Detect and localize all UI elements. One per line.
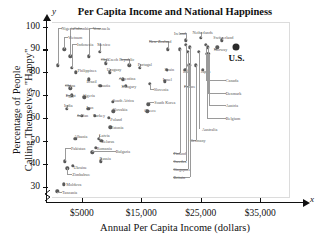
label-leader-line bbox=[188, 52, 189, 170]
data-point-label: South Korea bbox=[154, 100, 175, 105]
label-leader-line bbox=[196, 65, 197, 139]
data-point-label: Slovakia bbox=[113, 106, 128, 111]
label-leader-line bbox=[58, 28, 59, 66]
data-point-label: Colombia bbox=[73, 25, 90, 30]
data-point-label: Bulgaria bbox=[116, 149, 130, 154]
data-point-label: Finland bbox=[173, 151, 186, 156]
data-point-label: Albania bbox=[74, 134, 87, 139]
data-point-label: China bbox=[65, 82, 75, 87]
label-leader-line bbox=[209, 54, 210, 105]
data-point-label: Belgium bbox=[226, 116, 240, 121]
data-point-label: Canada bbox=[226, 78, 239, 83]
y-tick bbox=[43, 164, 48, 165]
y-axis-variable-label: y bbox=[52, 6, 56, 16]
data-point-label: Zimbabwe bbox=[72, 172, 90, 177]
data-point-label: Poland bbox=[110, 117, 122, 122]
label-leader-line bbox=[207, 118, 225, 119]
chart-container: Per Capita Income and National Happiness… bbox=[0, 0, 329, 241]
data-point-label: Algeria bbox=[82, 93, 95, 98]
data-point-label: Jordan bbox=[77, 112, 88, 117]
data-point-label: Portugal bbox=[138, 62, 152, 67]
data-point-label: Slovenia bbox=[154, 87, 169, 92]
data-point-label: Switzerland bbox=[213, 34, 233, 39]
y-tick bbox=[43, 187, 48, 188]
x-tick bbox=[82, 198, 83, 203]
data-point-label: Spain bbox=[164, 66, 174, 71]
data-point-label: Latvia bbox=[99, 133, 110, 138]
data-point-label: Netherlands bbox=[192, 30, 212, 35]
axis-break-icon bbox=[43, 190, 52, 202]
y-tick bbox=[43, 27, 48, 28]
y-axis-title-line-1: Percentage of People bbox=[11, 25, 23, 195]
data-point-label: Philippines bbox=[78, 68, 97, 73]
data-point-label: Austria bbox=[226, 103, 238, 108]
x-tick bbox=[141, 198, 142, 203]
data-point-label: Britain bbox=[173, 175, 185, 180]
data-point-label: Mexico bbox=[97, 41, 110, 46]
data-point-label: Israel bbox=[163, 77, 172, 82]
y-axis-title-line-2: Calling Themselves "Happy" bbox=[23, 25, 35, 195]
data-point-label: India bbox=[64, 103, 73, 108]
x-tick-label: $5000 bbox=[70, 208, 94, 218]
x-axis-title: Annual Per Capita Income (dollars) bbox=[46, 222, 304, 233]
y-tick bbox=[43, 118, 48, 119]
data-point-label: Pakistan bbox=[71, 145, 85, 150]
data-point-label: Egypt bbox=[66, 93, 76, 98]
y-axis-line bbox=[46, 20, 47, 202]
x-tick bbox=[201, 198, 202, 203]
data-point-label: Russia bbox=[100, 156, 111, 161]
x-tick-label: $15,000 bbox=[126, 208, 157, 218]
label-leader-line bbox=[199, 52, 200, 130]
data-point-label: Czech Republic bbox=[108, 56, 135, 61]
label-leader-line bbox=[92, 151, 115, 152]
y-tick bbox=[43, 49, 48, 50]
label-leader-line bbox=[180, 49, 181, 153]
data-point-label: Brazil bbox=[87, 79, 97, 84]
data-point-label: Belarus bbox=[101, 138, 114, 143]
data-point-label: Norway bbox=[214, 47, 228, 52]
data-point-label: Australia bbox=[202, 127, 217, 132]
data-point-label: Germany bbox=[190, 137, 206, 142]
label-leader-line bbox=[209, 105, 226, 106]
data-point-label: Argentina bbox=[119, 76, 136, 81]
data-point-label: Vietnam bbox=[68, 34, 82, 39]
data-point-label: Ukraine bbox=[73, 165, 87, 170]
label-leader-line bbox=[186, 45, 187, 162]
x-tick-label: $35,000 bbox=[245, 208, 276, 218]
y-tick bbox=[43, 141, 48, 142]
data-point-label: Iran bbox=[87, 104, 94, 109]
data-point-label: Croatia bbox=[98, 82, 110, 87]
data-point-label: Greece bbox=[144, 108, 156, 113]
data-point-label: Hungary bbox=[122, 84, 137, 89]
data-point-label: Venezuela bbox=[93, 25, 110, 30]
data-point-label: Estonia bbox=[111, 125, 124, 130]
data-point-label: Moldova bbox=[66, 182, 81, 187]
label-leader-line bbox=[64, 37, 65, 50]
x-axis-variable-label: x bbox=[310, 194, 314, 204]
label-leader-line bbox=[208, 93, 226, 94]
y-tick bbox=[43, 72, 48, 73]
data-point-us[interactable] bbox=[233, 44, 240, 51]
data-point-label: Turkey bbox=[93, 112, 105, 117]
label-leader-line bbox=[65, 148, 66, 162]
label-leader-line bbox=[207, 54, 208, 118]
data-point-label: Uruguay bbox=[107, 66, 122, 71]
y-axis-title: Percentage of People Calling Themselves … bbox=[11, 25, 35, 195]
data-point-label: Ireland bbox=[174, 31, 186, 36]
label-leader-line bbox=[190, 47, 191, 177]
data-point-label: New Zealand bbox=[149, 39, 171, 44]
y-axis-arrow bbox=[43, 14, 51, 21]
label-leader-line bbox=[72, 44, 73, 68]
data-point-label-us: U.S. bbox=[228, 56, 244, 61]
data-point-label: Romania bbox=[97, 145, 112, 150]
data-point-label: Denmark bbox=[226, 90, 242, 95]
data-point-label: Indonesia bbox=[77, 41, 93, 46]
data-point-label: South Africa bbox=[113, 97, 134, 102]
chart-title: Per Capita Income and National Happiness bbox=[60, 6, 290, 17]
x-tick bbox=[260, 198, 261, 203]
x-axis-line bbox=[46, 202, 304, 203]
data-point-label: Singapore bbox=[173, 167, 190, 172]
data-point-label: Sweden bbox=[173, 159, 186, 164]
x-axis-arrow bbox=[303, 199, 310, 207]
y-tick bbox=[43, 95, 48, 96]
